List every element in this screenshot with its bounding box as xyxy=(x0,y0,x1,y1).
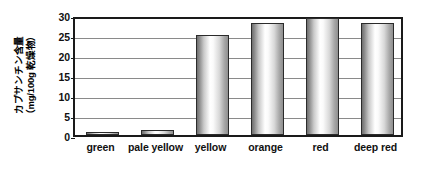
capsanthin-bar-chart: カプサンチン含量 （mg/100g 乾燥物） 051015202530 gree… xyxy=(0,0,421,176)
bar-deep-red xyxy=(361,23,394,135)
gridline xyxy=(75,78,401,79)
y-axis-tick-mark xyxy=(71,38,75,39)
y-axis-title-line2: （mg/100g 乾燥物） xyxy=(24,31,36,120)
plot-area xyxy=(73,17,403,137)
y-axis-tick-mark xyxy=(71,58,75,59)
plot-inner xyxy=(75,19,401,135)
x-axis-label-red: red xyxy=(293,141,348,153)
y-axis-tick-label: 30 xyxy=(44,11,70,23)
y-axis-tick-mark xyxy=(71,18,75,19)
y-axis-tick-mark xyxy=(71,78,75,79)
bar-green xyxy=(86,132,119,135)
gridline xyxy=(75,58,401,59)
gridline xyxy=(75,38,401,39)
y-axis-tick-label: 25 xyxy=(44,31,70,43)
y-axis-tick-label: 15 xyxy=(44,71,70,83)
y-axis-tick-mark xyxy=(71,138,75,139)
y-axis-tick-label: 5 xyxy=(44,111,70,123)
y-axis-tick-label: 10 xyxy=(44,91,70,103)
bar-pale-yellow xyxy=(141,130,174,135)
y-axis-tick-labels: 051015202530 xyxy=(42,0,70,176)
bar-orange xyxy=(251,23,284,135)
x-axis-label-deep-red: deep red xyxy=(348,141,403,153)
y-axis-tick-label: 0 xyxy=(44,131,70,143)
x-axis-tick-labels: greenpale yellowyelloworangereddeep red xyxy=(73,141,403,161)
gridline xyxy=(75,118,401,119)
y-axis-title-line1: カプサンチン含量 xyxy=(13,31,25,120)
x-axis-label-orange: orange xyxy=(238,141,293,153)
x-axis-label-pale-yellow: pale yellow xyxy=(128,141,183,153)
y-axis-tick-mark xyxy=(71,98,75,99)
bar-red xyxy=(306,18,339,135)
x-axis-label-yellow: yellow xyxy=(183,141,238,153)
x-axis-label-green: green xyxy=(73,141,128,153)
y-axis-tick-label: 20 xyxy=(44,51,70,63)
gridline xyxy=(75,98,401,99)
bar-yellow xyxy=(196,35,229,135)
y-axis-tick-mark xyxy=(71,118,75,119)
y-axis-title: カプサンチン含量 （mg/100g 乾燥物） xyxy=(6,0,42,150)
